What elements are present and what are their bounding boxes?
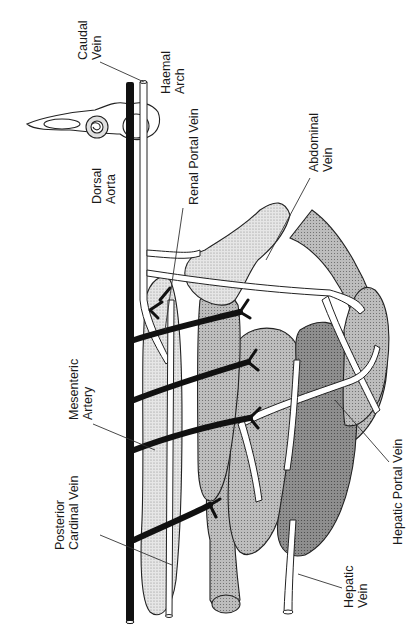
hepatic-vein-label: HepaticVein bbox=[342, 566, 370, 608]
renal-portal-vein-label: Renal Portal Vein bbox=[187, 108, 201, 205]
hepatic-portal-vein-label: Hepatic Portal Vein bbox=[391, 439, 405, 545]
fish-circulation-diagram: CaudalVein HaemalArch DorsalAorta Renal … bbox=[0, 0, 416, 644]
mesenteric-artery-label: MesentericArtery bbox=[67, 359, 95, 420]
haemal-arch-label: HaemalArch bbox=[159, 51, 187, 94]
dorsal-aorta-label: DorsalAorta bbox=[90, 168, 118, 204]
abdominal-vein-label: AbdominalVein bbox=[307, 113, 335, 172]
posterior-cardinal-vein-label: PosteriorCardinal Vein bbox=[53, 476, 81, 550]
caudal-vein-label: CaudalVein bbox=[76, 20, 104, 60]
